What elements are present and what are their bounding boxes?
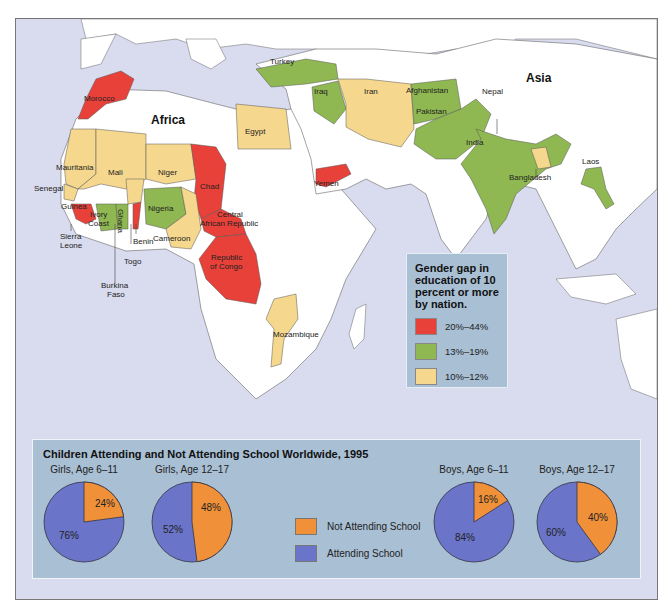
label-iraq: Iraq <box>314 88 328 96</box>
pie-value-not: 24% <box>95 498 115 509</box>
legend-item-yellow: 10%–12% <box>415 368 499 385</box>
label-burkina-faso-1: Burkina <box>101 282 128 290</box>
label-niger: Niger <box>158 169 177 177</box>
pie-value-not: 48% <box>201 502 221 513</box>
label-congo-1: Republic <box>211 254 242 262</box>
label-morocco: Morocco <box>84 95 115 103</box>
label-sierra-leone-1: Sierra <box>60 233 81 241</box>
label-mauritania: Mauritania <box>56 164 93 172</box>
pie-graphic: 48% 52% <box>151 481 233 563</box>
label-car-2: African Republic <box>200 220 258 228</box>
label-ghana: Ghana <box>116 209 124 233</box>
pie-value-att: 52% <box>163 524 183 535</box>
label-sierra-leone-2: Leone <box>60 242 82 250</box>
pie-girls-12-17: Girls, Age 12–17 48% 52% <box>151 464 233 563</box>
legend-swatch-blue <box>295 545 317 562</box>
legend-swatch-red <box>415 318 437 335</box>
label-congo-2: of Congo <box>210 263 242 271</box>
pie-panel-title: Children Attending and Not Attending Sch… <box>43 448 368 460</box>
pie-legend-not: Not Attending School <box>295 518 420 535</box>
label-guinea: Guinea <box>61 203 87 211</box>
map-legend: Gender gap in education of 10 percent or… <box>406 253 508 388</box>
pie-boys-6-11: Boys, Age 6–11 16% 84% <box>433 464 515 563</box>
legend-title: Gender gap in education of 10 percent or… <box>415 262 499 310</box>
pie-caption: Girls, Age 12–17 <box>151 464 233 475</box>
label-bangladesh: Bangladesh <box>509 174 551 182</box>
legend-swatch-yellow <box>415 368 437 385</box>
label-ivory-coast-2: Coast <box>88 220 109 228</box>
pie-value-att: 60% <box>546 527 566 538</box>
country-niger <box>146 144 196 184</box>
pie-girls-6-11: Girls, Age 6–11 24% 76% <box>43 464 125 563</box>
label-mozambique: Mozambique <box>273 331 319 339</box>
legend-swatch-orange <box>295 518 317 535</box>
label-asia: Asia <box>526 71 551 85</box>
pie-value-att: 84% <box>455 532 475 543</box>
legend-item-red: 20%–44% <box>415 318 499 335</box>
pie-graphic: 40% 60% <box>536 481 618 563</box>
map <box>16 19 657 429</box>
label-car-1: Central <box>217 211 243 219</box>
pie-caption: Boys, Age 12–17 <box>536 464 618 475</box>
pie-caption: Boys, Age 6–11 <box>433 464 515 475</box>
country-benin <box>126 179 144 204</box>
label-burkina-faso-2: Faso <box>107 291 125 299</box>
pie-value-not: 16% <box>478 494 498 505</box>
label-afghanistan: Afghanistan <box>406 87 448 95</box>
label-india: India <box>466 139 483 147</box>
label-benin: Benin <box>133 238 153 246</box>
label-togo: Togo <box>124 258 141 266</box>
label-laos: Laos <box>582 158 599 166</box>
label-nepal: Nepal <box>482 88 503 96</box>
label-yemen: Yemen <box>314 180 339 188</box>
legend-item-green: 13%–19% <box>415 343 499 360</box>
pie-chart-panel: Children Attending and Not Attending Sch… <box>32 439 641 579</box>
label-nigeria: Nigeria <box>148 205 173 213</box>
pie-value-not: 40% <box>588 512 608 523</box>
label-chad: Chad <box>200 183 219 191</box>
label-pakistan: Pakistan <box>416 108 447 116</box>
pie-boys-12-17: Boys, Age 12–17 40% 60% <box>536 464 618 563</box>
label-cameroon: Cameroon <box>153 235 190 243</box>
pie-graphic: 24% 76% <box>43 481 125 563</box>
pie-legend: Not Attending School Attending School <box>295 518 420 572</box>
label-africa: Africa <box>151 113 185 127</box>
pie-value-att: 76% <box>59 530 79 541</box>
map-figure: Africa Asia Morocco Turkey Iraq Iran Afg… <box>15 18 658 600</box>
legend-label: 13%–19% <box>445 346 488 357</box>
pie-graphic: 16% 84% <box>433 481 515 563</box>
legend-label: 20%–44% <box>445 321 488 332</box>
label-iran: Iran <box>364 88 378 96</box>
legend-swatch-green <box>415 343 437 360</box>
label-senegal: Senegal <box>34 185 63 193</box>
pie-caption: Girls, Age 6–11 <box>43 464 125 475</box>
legend-label: 10%–12% <box>445 371 488 382</box>
legend-label: Not Attending School <box>327 521 420 532</box>
label-mali: Mali <box>108 169 123 177</box>
label-ivory-coast-1: Ivory <box>90 211 107 219</box>
pie-legend-att: Attending School <box>295 545 420 562</box>
label-egypt: Egypt <box>245 128 265 136</box>
label-turkey: Turkey <box>270 58 294 66</box>
legend-label: Attending School <box>327 548 403 559</box>
